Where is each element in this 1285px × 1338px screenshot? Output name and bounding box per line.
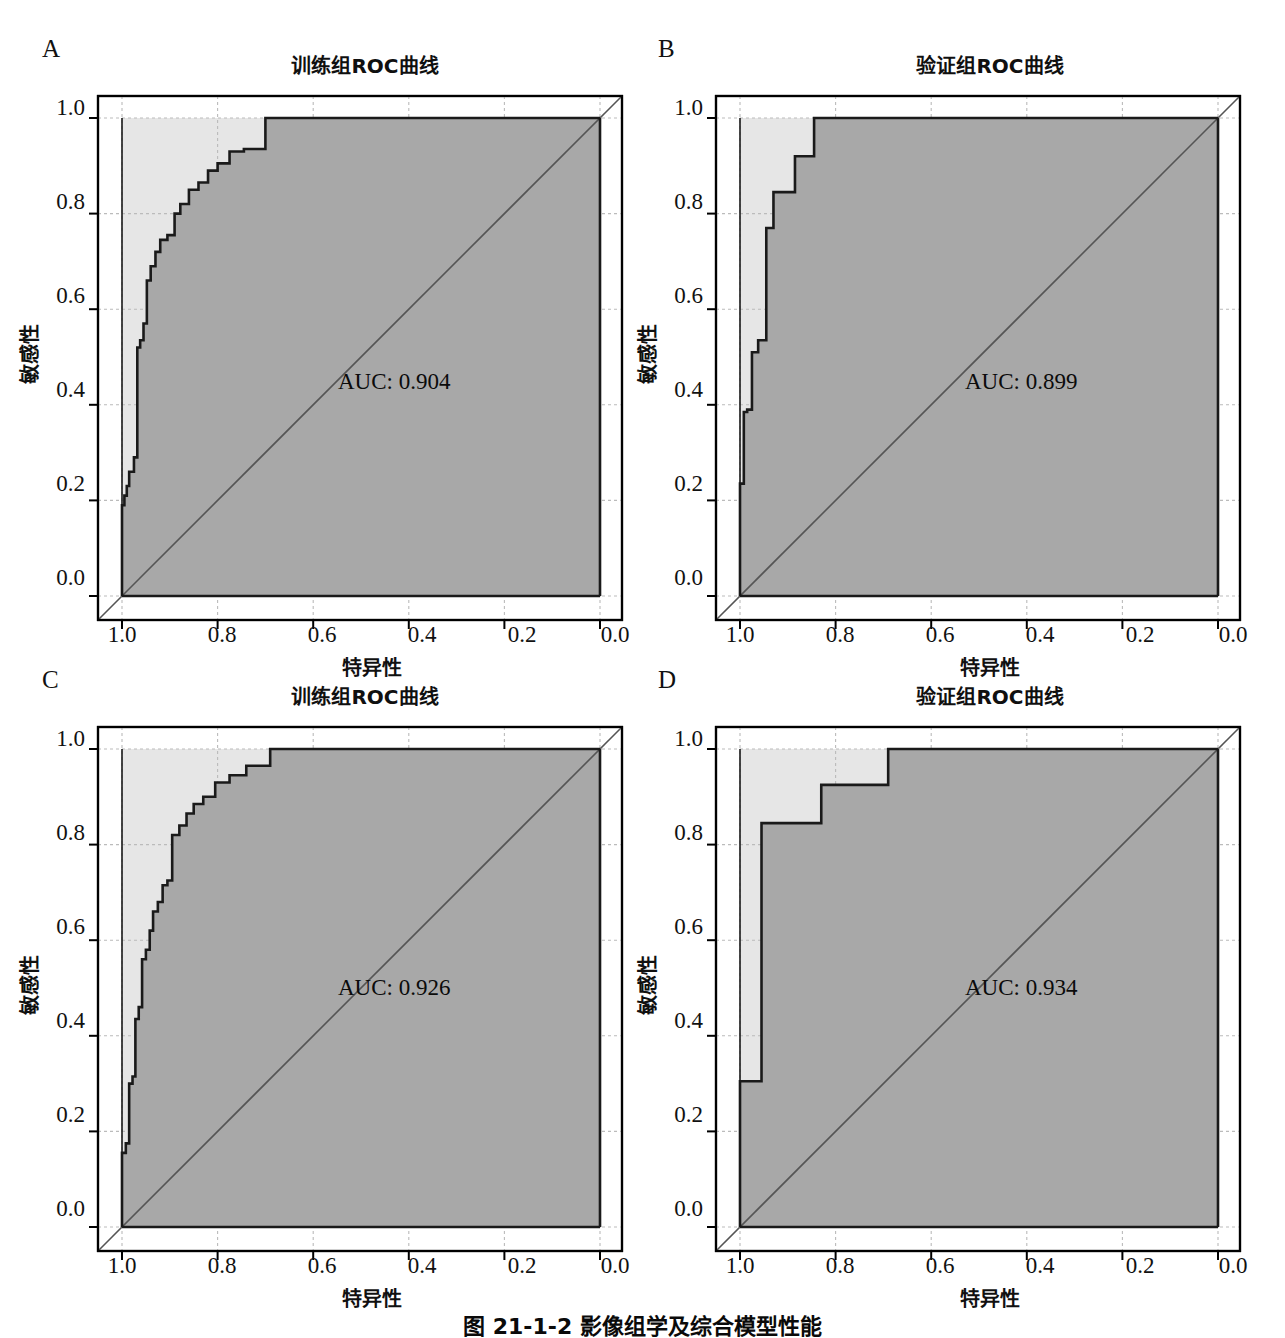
panel-letter-b: B bbox=[658, 36, 675, 61]
x-tick-a-1: 0.8 bbox=[208, 622, 237, 648]
x-tick-c-1: 0.8 bbox=[208, 1253, 237, 1279]
y-tick-b-0: 1.0 bbox=[648, 95, 703, 121]
y-tick-d-2: 0.6 bbox=[648, 914, 703, 940]
panel-d-plot bbox=[640, 655, 1285, 1295]
panel-title-b: 验证组ROC曲线 bbox=[730, 50, 1250, 79]
y-tick-a-1: 0.8 bbox=[30, 189, 85, 215]
x-tick-a-4: 0.2 bbox=[508, 622, 537, 648]
panel-c: C 训练组ROC曲线 1.0 0.8 0.6 0.4 0.2 0.0 敏感性 1… bbox=[0, 655, 645, 1295]
auc-label-d: AUC: 0.934 bbox=[965, 975, 1077, 1001]
auc-label-a: AUC: 0.904 bbox=[338, 369, 450, 395]
x-tick-b-2: 0.6 bbox=[926, 622, 955, 648]
y-tick-b-1: 0.8 bbox=[648, 189, 703, 215]
panel-a: A 训练组ROC曲线 1.0 0.8 0.6 0.4 0.2 0.0 敏感性 1… bbox=[0, 24, 645, 664]
panel-b: B 验证组ROC曲线 1.0 0.8 0.6 0.4 0.2 0.0 敏感性 1… bbox=[640, 24, 1285, 664]
panel-title-a: 训练组ROC曲线 bbox=[110, 50, 620, 79]
y-axis-label-b: 敏感性 bbox=[632, 324, 661, 384]
x-tick-a-3: 0.4 bbox=[408, 622, 437, 648]
x-tick-b-5: 0.0 bbox=[1219, 622, 1248, 648]
y-tick-c-4: 0.2 bbox=[30, 1102, 85, 1128]
y-tick-c-1: 0.8 bbox=[30, 820, 85, 846]
auc-label-b: AUC: 0.899 bbox=[965, 369, 1077, 395]
auc-label-c: AUC: 0.926 bbox=[338, 975, 450, 1001]
x-tick-c-3: 0.4 bbox=[408, 1253, 437, 1279]
y-tick-b-4: 0.2 bbox=[648, 471, 703, 497]
panel-title-c: 训练组ROC曲线 bbox=[110, 681, 620, 710]
x-tick-d-1: 0.8 bbox=[826, 1253, 855, 1279]
y-tick-c-0: 1.0 bbox=[30, 726, 85, 752]
y-tick-a-5: 0.0 bbox=[30, 565, 85, 591]
x-tick-d-2: 0.6 bbox=[926, 1253, 955, 1279]
y-tick-a-2: 0.6 bbox=[30, 283, 85, 309]
panel-d: D 验证组ROC曲线 1.0 0.8 0.6 0.4 0.2 0.0 敏感性 1… bbox=[640, 655, 1285, 1295]
y-tick-b-5: 0.0 bbox=[648, 565, 703, 591]
panel-letter-c: C bbox=[42, 667, 59, 692]
panel-b-plot bbox=[640, 24, 1285, 664]
x-tick-b-1: 0.8 bbox=[826, 622, 855, 648]
figure-root: A 训练组ROC曲线 1.0 0.8 0.6 0.4 0.2 0.0 敏感性 1… bbox=[0, 0, 1285, 1338]
panel-title-d: 验证组ROC曲线 bbox=[730, 681, 1250, 710]
x-tick-a-0: 1.0 bbox=[108, 622, 137, 648]
panel-letter-d: D bbox=[658, 667, 676, 692]
panel-c-plot bbox=[0, 655, 645, 1295]
x-tick-a-5: 0.0 bbox=[601, 622, 630, 648]
panel-letter-a: A bbox=[42, 36, 60, 61]
figure-caption: 图 21-1-2 影像组学及综合模型性能 bbox=[0, 1308, 1285, 1338]
y-tick-d-1: 0.8 bbox=[648, 820, 703, 846]
x-tick-c-5: 0.0 bbox=[601, 1253, 630, 1279]
y-tick-d-0: 1.0 bbox=[648, 726, 703, 752]
y-axis-label-a: 敏感性 bbox=[14, 324, 43, 384]
x-tick-d-0: 1.0 bbox=[726, 1253, 755, 1279]
x-tick-c-4: 0.2 bbox=[508, 1253, 537, 1279]
x-tick-d-4: 0.2 bbox=[1126, 1253, 1155, 1279]
x-tick-d-5: 0.0 bbox=[1219, 1253, 1248, 1279]
x-tick-b-0: 1.0 bbox=[726, 622, 755, 648]
panel-a-plot bbox=[0, 24, 645, 664]
y-tick-c-5: 0.0 bbox=[30, 1196, 85, 1222]
y-tick-d-5: 0.0 bbox=[648, 1196, 703, 1222]
x-tick-a-2: 0.6 bbox=[308, 622, 337, 648]
x-tick-b-4: 0.2 bbox=[1126, 622, 1155, 648]
x-tick-c-0: 1.0 bbox=[108, 1253, 137, 1279]
x-tick-c-2: 0.6 bbox=[308, 1253, 337, 1279]
y-tick-c-2: 0.6 bbox=[30, 914, 85, 940]
y-tick-b-2: 0.6 bbox=[648, 283, 703, 309]
y-axis-label-d: 敏感性 bbox=[632, 955, 661, 1015]
x-tick-b-3: 0.4 bbox=[1026, 622, 1055, 648]
y-axis-label-c: 敏感性 bbox=[14, 955, 43, 1015]
y-tick-d-4: 0.2 bbox=[648, 1102, 703, 1128]
x-tick-d-3: 0.4 bbox=[1026, 1253, 1055, 1279]
y-tick-a-0: 1.0 bbox=[30, 95, 85, 121]
y-tick-a-4: 0.2 bbox=[30, 471, 85, 497]
